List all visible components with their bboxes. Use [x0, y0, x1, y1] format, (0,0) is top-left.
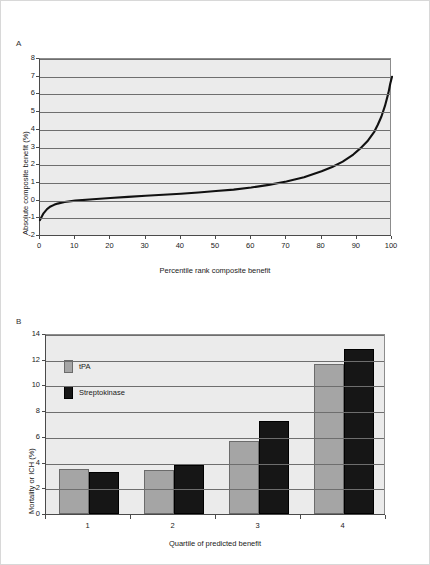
gridline [40, 130, 390, 131]
panel-a-label: A [16, 39, 22, 48]
y-tick-mark [36, 93, 39, 94]
x-tick-mark [180, 236, 181, 239]
gridline [40, 112, 390, 113]
legend-item-streptokinase: Streptokinase [64, 386, 125, 399]
legend-label-tpa: tPA [79, 362, 91, 371]
y-tick-mark [36, 164, 39, 165]
y-tick-mark [36, 58, 39, 59]
x-tick-label: 80 [309, 241, 333, 250]
gridline [40, 77, 390, 78]
gridline [40, 201, 390, 202]
legend-swatch-tpa [64, 360, 73, 373]
x-tick-mark [215, 236, 216, 239]
y-tick-mark [36, 76, 39, 77]
x-tick-label: 90 [344, 241, 368, 250]
x-tick-mark [285, 236, 286, 239]
x-tick-mark [356, 236, 357, 239]
gridline [46, 386, 384, 387]
x-tick-label: 10 [62, 241, 86, 250]
panel-b-y-axis-title: Mortality or ICH (%) [27, 334, 36, 514]
y-tick-mark [36, 147, 39, 148]
bar-streptokinase-q3 [259, 421, 289, 514]
x-tick-mark [391, 236, 392, 239]
x-tick-label: 50 [203, 241, 227, 250]
x-tick-mark [385, 515, 386, 519]
x-tick-mark [250, 236, 251, 239]
y-tick-mark [36, 129, 39, 130]
gridline [46, 335, 384, 336]
x-tick-mark [145, 236, 146, 239]
y-tick-mark [42, 463, 45, 464]
legend-item-tpa: tPA [64, 360, 91, 373]
panel-b-x-axis-title: Quartile of predicted benefit [45, 539, 385, 548]
x-tick-mark [300, 515, 301, 519]
x-tick-label: 3 [246, 521, 270, 530]
legend-swatch-streptokinase [64, 386, 73, 399]
y-tick-mark [36, 111, 39, 112]
figure-container: A -2-1012345678 0102030405060708090100 P… [0, 0, 430, 565]
bar-streptokinase-q1 [89, 472, 119, 514]
gridline [40, 148, 390, 149]
x-tick-label: 4 [331, 521, 355, 530]
y-tick-mark [42, 360, 45, 361]
gridline [46, 361, 384, 362]
bar-tpa-q2 [144, 470, 174, 514]
x-tick-label: 2 [161, 521, 185, 530]
gridline [40, 165, 390, 166]
x-tick-mark [130, 515, 131, 519]
y-tick-mark [42, 334, 45, 335]
x-tick-label: 60 [238, 241, 262, 250]
gridline [40, 59, 390, 60]
y-tick-mark [36, 200, 39, 201]
panel-a-x-axis-line [39, 235, 391, 236]
gridline [40, 218, 390, 219]
panel-a-x-axis-title: Percentile rank composite benefit [39, 266, 391, 275]
y-tick-mark [42, 437, 45, 438]
panel-a-plot-area [39, 58, 391, 235]
gridline [46, 412, 384, 413]
x-tick-mark [45, 515, 46, 519]
legend-label-streptokinase: Streptokinase [79, 388, 125, 397]
x-tick-label: 100 [379, 241, 403, 250]
y-tick-mark [42, 411, 45, 412]
gridline [46, 464, 384, 465]
panel-b-plot-area: tPA Streptokinase [45, 334, 385, 514]
x-tick-mark [74, 236, 75, 239]
x-tick-label: 0 [27, 241, 51, 250]
x-tick-mark [109, 236, 110, 239]
y-tick-mark [36, 217, 39, 218]
y-tick-mark [42, 488, 45, 489]
gridline [40, 183, 390, 184]
panel-a-y-axis-title: Absolute composite benefit (%) [21, 58, 30, 235]
x-tick-label: 1 [76, 521, 100, 530]
gridline [46, 438, 384, 439]
panel-b-x-axis-line [45, 514, 385, 515]
bar-tpa-q1 [59, 469, 89, 514]
x-tick-mark [321, 236, 322, 239]
x-tick-label: 70 [273, 241, 297, 250]
gridline [40, 94, 390, 95]
y-tick-mark [42, 385, 45, 386]
bar-tpa-q3 [229, 441, 259, 514]
gridline [46, 489, 384, 490]
x-tick-mark [39, 236, 40, 239]
x-tick-label: 30 [133, 241, 157, 250]
x-tick-mark [215, 515, 216, 519]
x-tick-label: 40 [168, 241, 192, 250]
y-tick-mark [36, 182, 39, 183]
x-tick-label: 20 [97, 241, 121, 250]
panel-b-label: B [16, 317, 22, 326]
